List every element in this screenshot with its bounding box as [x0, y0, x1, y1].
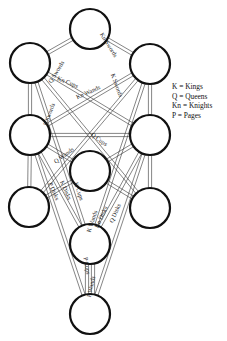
sephirah-node-n7 — [130, 188, 170, 228]
sephirah-node-n10 — [70, 294, 110, 334]
legend-item-kings: K = Kings — [172, 82, 212, 92]
path-label: Kn Wands — [75, 83, 102, 100]
sephirah-node-n2 — [130, 44, 170, 84]
sephirah-node-n3 — [10, 43, 50, 83]
tree-of-life-diagram: Q SwordsKn SwordsKn CupsKn WandsP Swords… — [0, 0, 227, 341]
sephirah-node-n8 — [9, 187, 49, 227]
path-label: Kn Cups — [56, 74, 79, 89]
legend-item-knights: Kn = Knights — [172, 101, 212, 111]
sephirah-node-n4 — [130, 115, 170, 155]
legend-item-queens: Q = Queens — [172, 92, 212, 102]
path-label: K Swords — [110, 72, 125, 98]
legend: K = Kings Q = Queens Kn = Knights P = Pa… — [172, 82, 212, 120]
legend-item-pages: P = Pages — [172, 111, 212, 121]
